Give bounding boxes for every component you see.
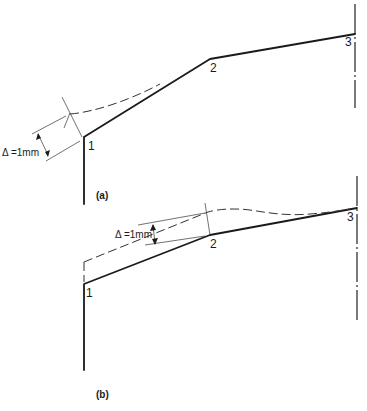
extension-line-top-a <box>32 116 66 134</box>
diagram-canvas: Δ =1mm 1 2 3 (a) Δ =1mm 1 2 3 (b) <box>0 0 367 411</box>
point-label-1b: 1 <box>86 286 93 300</box>
point-label-3a: 3 <box>345 35 352 49</box>
profile-line-a <box>84 34 355 204</box>
point-label-1a: 1 <box>88 139 95 153</box>
panel-caption-a: (a) <box>96 190 108 201</box>
panel-a: Δ =1mm 1 2 3 (a) <box>2 4 355 204</box>
panel-b: Δ =1mm 1 2 3 (b) <box>84 176 357 400</box>
dimension-label-b: Δ =1mm <box>115 229 152 240</box>
point-label-3b: 3 <box>347 210 354 224</box>
dimension-label-a: Δ =1mm <box>2 147 39 158</box>
tick-line-a <box>64 113 70 128</box>
panel-caption-b: (b) <box>96 389 109 400</box>
normal-line-b <box>205 203 210 235</box>
normal-line-a <box>62 97 82 137</box>
point-label-2a: 2 <box>210 61 217 75</box>
extension-line-bottom-a <box>46 141 80 161</box>
point-label-2b: 2 <box>210 237 217 251</box>
extension-line-top-b <box>138 213 205 225</box>
